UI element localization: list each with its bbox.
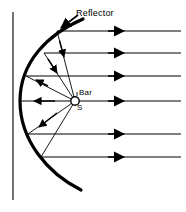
source-ray-arrow: [39, 113, 57, 127]
source-label: S: [77, 104, 83, 112]
parabolic-reflector-diagram: Reflector Bar S: [0, 0, 186, 212]
reflector-label: Reflector: [76, 9, 114, 18]
source-ray: [41, 101, 75, 157]
source-ray-arrow: [48, 59, 57, 73]
diagram-canvas: [0, 0, 186, 212]
outgoing-ray-group: [20, 31, 181, 157]
source-ray-group: [26, 31, 75, 157]
outgoing-ray-arrow-group: [108, 31, 124, 157]
source-ray-arrow: [60, 41, 65, 58]
source-ray-arrow: [36, 80, 48, 86]
source-ray: [26, 76, 75, 101]
bar-label: Bar: [79, 89, 92, 97]
